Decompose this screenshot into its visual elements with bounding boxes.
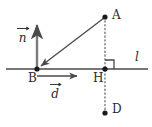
line-label-l: l	[135, 51, 139, 63]
vector-n-glyph: n	[17, 31, 28, 45]
vector-d-overbar-arrow	[50, 82, 62, 87]
segment-A-to-B	[41, 18, 104, 66]
point-label-A: A	[112, 9, 121, 21]
geometry-figure: A B H D l n d	[0, 0, 152, 127]
point-H-dot	[102, 66, 107, 71]
point-D-dot	[102, 110, 107, 115]
point-label-H: H	[93, 72, 103, 84]
vector-n-overbar-arrow	[17, 26, 30, 31]
point-label-D: D	[112, 103, 122, 115]
vector-label-n: n	[17, 27, 28, 45]
geometry-canvas	[0, 0, 152, 127]
point-A-dot	[102, 14, 107, 19]
vector-label-d: d	[50, 83, 60, 101]
point-label-B: B	[28, 72, 37, 84]
vector-d-glyph: d	[50, 87, 60, 101]
